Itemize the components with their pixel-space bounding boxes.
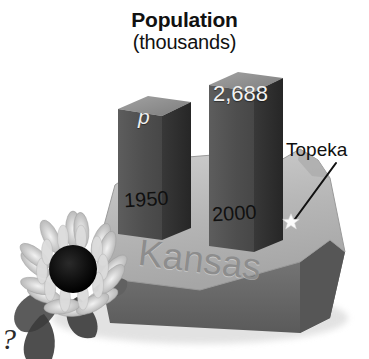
illustration-canvas: Population (thousands) (0, 0, 369, 359)
bar-year-1950: 1950 (123, 187, 169, 213)
capital-city-label: Topeka (286, 139, 347, 161)
bar-value-1950: p (138, 105, 150, 129)
bar-1950 (118, 96, 191, 240)
sunflower-disc (49, 245, 97, 293)
chart-scene (0, 0, 369, 359)
bar-value-2000: 2,688 (213, 81, 268, 107)
corner-question-mark: ? (1, 322, 16, 356)
bar-year-2000: 2000 (211, 201, 257, 227)
